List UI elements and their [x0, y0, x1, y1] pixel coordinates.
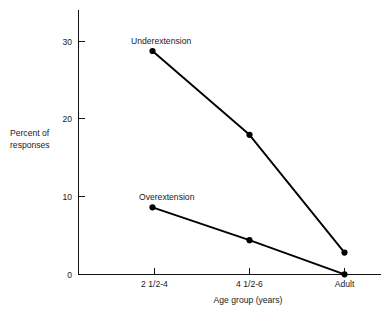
series-overextension-point-2 — [341, 271, 347, 277]
series-underextension — [149, 48, 347, 256]
y-axis-title-line2: responses — [10, 140, 50, 150]
y-tick-label-20: 20 — [62, 114, 72, 124]
x-tick-label-0: 2 1/2-4 — [141, 279, 168, 289]
chart-plot-area: 0 10 20 30 2 1/2-4 4 1/2-6 Adult Age gro… — [0, 0, 389, 314]
series-underextension-point-0 — [149, 48, 155, 54]
series-underextension-point-1 — [246, 132, 252, 138]
series-overextension — [149, 204, 347, 277]
y-axis-ticks — [79, 42, 86, 275]
x-axis-ticks — [155, 268, 345, 275]
x-tick-label-1: 4 1/2-6 — [236, 279, 263, 289]
y-axis-title-line1: Percent of — [10, 128, 50, 138]
y-tick-label-0: 0 — [67, 270, 72, 280]
series-label-overextension: Overextension — [139, 192, 195, 202]
series-underextension-line — [153, 51, 345, 253]
series-overextension-point-1 — [246, 237, 252, 243]
x-axis-title: Age group (years) — [214, 295, 283, 305]
series-overextension-point-0 — [149, 204, 155, 210]
series-label-underextension: Underextension — [131, 36, 191, 46]
series-underextension-point-2 — [341, 250, 347, 256]
y-tick-label-30: 30 — [62, 37, 72, 47]
x-tick-label-2: Adult — [335, 279, 355, 289]
y-tick-label-10: 10 — [62, 192, 72, 202]
chart-figure: 0 10 20 30 2 1/2-4 4 1/2-6 Adult Age gro… — [0, 0, 389, 314]
